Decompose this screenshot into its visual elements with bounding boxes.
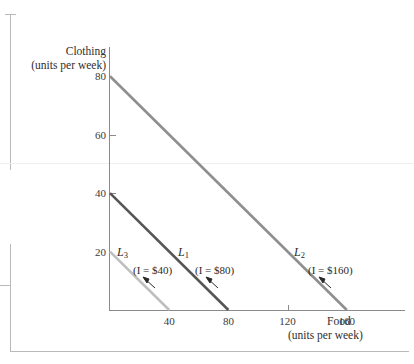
annotation-arrows-group [0,0,414,364]
figure-canvas: Clothing (units per week) Food (units pe… [0,0,414,364]
